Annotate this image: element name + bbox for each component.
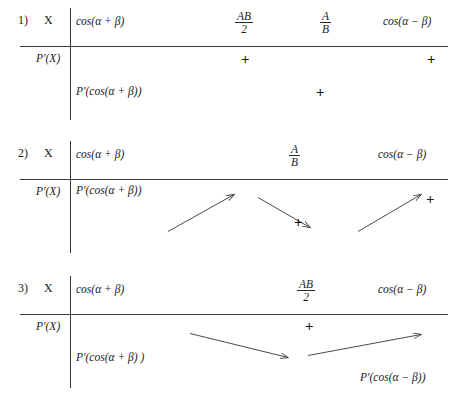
panel-3-fraction-denominator: 2 bbox=[297, 290, 315, 303]
panel-1-sign-1: + bbox=[241, 52, 250, 67]
panel-3-fraction-numerator: AB bbox=[297, 278, 315, 290]
panel-1-variable-label: X bbox=[44, 14, 53, 26]
panel-3-fraction-ab-over-2: AB 2 bbox=[297, 278, 315, 304]
panel-2-variable-label: X bbox=[44, 147, 53, 159]
panel-2: 2) X cos(α + β) A B cos(α − β) P′(X) P′(… bbox=[0, 133, 470, 263]
panel-1-sign-2: + bbox=[316, 85, 325, 100]
panel-1-cos-sum-header: cos(α + β) bbox=[76, 16, 124, 28]
panel-1-fraction-numerator: AB bbox=[235, 10, 253, 22]
panel-1: 1) X cos(α + β) AB 2 A B cos(α − β) P′(X… bbox=[0, 0, 470, 130]
panel-2-cos-diff-header: cos(α − β) bbox=[378, 149, 426, 161]
panel-2-index-label: 2) bbox=[18, 147, 28, 159]
panel-3-sign-1: + bbox=[305, 319, 314, 334]
panel-3-variable-label: X bbox=[44, 282, 53, 294]
panel-3-body-label: P′(cos(α + β) ) bbox=[76, 352, 144, 364]
panel-1-body-label: P′(cos(α + β)) bbox=[76, 86, 141, 98]
panel-1-fraction-ab-over-2: AB 2 bbox=[235, 10, 253, 36]
panel-1-index-label: 1) bbox=[18, 14, 28, 26]
panel-3-deriv-row-label: P′(X) bbox=[36, 321, 60, 333]
panel-2-deriv-row-label: P′(X) bbox=[36, 186, 60, 198]
panel-2-sign-2: + bbox=[426, 192, 435, 207]
panel-1-vertical-divider bbox=[70, 8, 71, 120]
panel-3-cos-diff-header: cos(α − β) bbox=[378, 284, 426, 296]
panel-1-fraction-denominator: 2 bbox=[235, 22, 253, 35]
panel-2-body-label: P′(cos(α + β)) bbox=[76, 185, 141, 197]
panel-2-cos-sum-header: cos(α + β) bbox=[76, 149, 124, 161]
panel-1-sign-3: + bbox=[427, 52, 436, 67]
panel-2-fraction-denominator: B bbox=[289, 155, 300, 168]
panel-2-fraction-numerator: A bbox=[289, 143, 300, 155]
panel-1-fraction2-numerator: A bbox=[320, 10, 331, 22]
panel-1-deriv-row-label: P′(X) bbox=[36, 53, 60, 65]
panel-3-index-label: 3) bbox=[18, 282, 28, 294]
panel-3-cos-sum-header: cos(α + β) bbox=[76, 284, 124, 296]
panel-3: 3) X cos(α + β) AB 2 cos(α − β) P′(X) P′… bbox=[0, 268, 470, 399]
panel-1-horizontal-rule bbox=[20, 46, 448, 47]
panel-3-horizontal-rule bbox=[20, 314, 448, 315]
panel-2-fraction-a-over-b: A B bbox=[289, 143, 300, 169]
panel-2-vertical-divider bbox=[70, 141, 71, 253]
panel-1-cos-diff-header: cos(α − β) bbox=[383, 16, 431, 28]
panel-2-sign-1: + bbox=[294, 215, 303, 230]
panel-2-horizontal-rule bbox=[20, 179, 448, 180]
panel-1-fraction-a-over-b: A B bbox=[320, 10, 331, 36]
panel-3-end-label: P′(cos(α − β)) bbox=[360, 372, 425, 384]
panel-3-vertical-divider bbox=[70, 276, 71, 388]
panel-1-fraction2-denominator: B bbox=[320, 22, 331, 35]
